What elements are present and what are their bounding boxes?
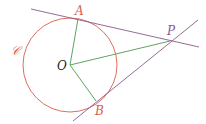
tangent-line-pb: [73, 20, 198, 121]
radius-ob: [70, 65, 96, 101]
label-b: B: [94, 104, 104, 118]
radius-oa: [70, 19, 78, 65]
segment-op: [70, 41, 170, 65]
tangent-diagram: 𝒞 A O P B: [0, 0, 206, 124]
label-p: P: [166, 24, 176, 38]
label-o: O: [57, 59, 67, 73]
label-circle: 𝒞: [11, 44, 23, 58]
label-a: A: [74, 4, 84, 18]
